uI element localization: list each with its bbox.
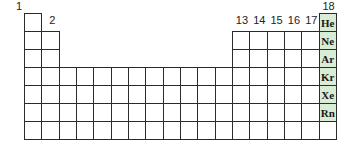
element-cell bbox=[267, 103, 285, 122]
group-label-15: 15 bbox=[268, 15, 286, 26]
element-cell bbox=[267, 121, 285, 140]
group-label-14: 14 bbox=[250, 15, 268, 26]
element-cell bbox=[41, 31, 59, 50]
noble-gas-cell: Ne bbox=[319, 31, 337, 50]
element-cell bbox=[41, 49, 59, 68]
element-cell bbox=[301, 67, 319, 86]
noble-gas-cell bbox=[319, 121, 337, 140]
element-cell bbox=[249, 103, 267, 122]
element-cell bbox=[249, 31, 267, 50]
element-cell bbox=[284, 49, 302, 68]
noble-gas-cell: Ar bbox=[319, 49, 337, 68]
element-cell bbox=[24, 13, 42, 32]
element-cell bbox=[93, 85, 111, 104]
element-cell bbox=[163, 85, 181, 104]
element-cell bbox=[93, 121, 111, 140]
element-cell bbox=[232, 31, 250, 50]
element-cell bbox=[59, 67, 77, 86]
element-cell bbox=[76, 67, 94, 86]
element-cell bbox=[163, 121, 181, 140]
element-cell bbox=[145, 67, 163, 86]
element-cell bbox=[197, 121, 215, 140]
element-cell bbox=[24, 31, 42, 50]
element-cell bbox=[145, 121, 163, 140]
element-cell bbox=[128, 67, 146, 86]
element-cell bbox=[76, 103, 94, 122]
element-cell bbox=[180, 103, 198, 122]
element-cell bbox=[24, 67, 42, 86]
element-cell bbox=[267, 49, 285, 68]
group-label-17: 17 bbox=[302, 15, 320, 26]
group-label-18: 18 bbox=[320, 1, 338, 12]
element-cell bbox=[267, 31, 285, 50]
element-cell bbox=[301, 121, 319, 140]
group-label-1: 1 bbox=[10, 1, 28, 12]
element-cell bbox=[284, 31, 302, 50]
element-cell bbox=[301, 31, 319, 50]
element-cell bbox=[111, 103, 129, 122]
element-cell bbox=[284, 67, 302, 86]
element-cell bbox=[232, 85, 250, 104]
element-cell bbox=[284, 85, 302, 104]
element-cell bbox=[59, 121, 77, 140]
element-cell bbox=[111, 67, 129, 86]
element-cell bbox=[249, 121, 267, 140]
element-cell bbox=[232, 121, 250, 140]
element-cell bbox=[128, 121, 146, 140]
element-cell bbox=[267, 85, 285, 104]
element-cell bbox=[197, 85, 215, 104]
element-cell bbox=[180, 85, 198, 104]
element-cell bbox=[197, 67, 215, 86]
group-label-16: 16 bbox=[285, 15, 303, 26]
element-cell bbox=[232, 103, 250, 122]
element-cell bbox=[215, 85, 233, 104]
element-cell bbox=[41, 103, 59, 122]
element-cell bbox=[284, 103, 302, 122]
element-cell bbox=[145, 85, 163, 104]
element-cell bbox=[301, 85, 319, 104]
element-cell bbox=[232, 49, 250, 68]
element-cell bbox=[215, 103, 233, 122]
element-cell bbox=[163, 103, 181, 122]
element-cell bbox=[215, 67, 233, 86]
element-cell bbox=[41, 67, 59, 86]
element-cell bbox=[180, 121, 198, 140]
noble-gas-cell: Xe bbox=[319, 85, 337, 104]
element-cell bbox=[301, 49, 319, 68]
element-cell bbox=[267, 67, 285, 86]
noble-gas-cell: Kr bbox=[319, 67, 337, 86]
element-cell bbox=[249, 67, 267, 86]
group-label-13: 13 bbox=[233, 15, 251, 26]
element-cell bbox=[93, 103, 111, 122]
element-cell bbox=[24, 121, 42, 140]
element-cell bbox=[163, 67, 181, 86]
element-cell bbox=[249, 49, 267, 68]
element-cell bbox=[76, 85, 94, 104]
element-cell bbox=[249, 85, 267, 104]
element-cell bbox=[284, 121, 302, 140]
element-cell bbox=[59, 85, 77, 104]
element-cell bbox=[111, 85, 129, 104]
element-cell bbox=[232, 67, 250, 86]
element-cell bbox=[197, 103, 215, 122]
element-cell bbox=[41, 121, 59, 140]
element-cell bbox=[215, 121, 233, 140]
noble-gas-cell: He bbox=[319, 13, 337, 32]
element-cell bbox=[41, 85, 59, 104]
element-cell bbox=[111, 121, 129, 140]
element-cell bbox=[76, 121, 94, 140]
element-cell bbox=[24, 85, 42, 104]
element-cell bbox=[59, 103, 77, 122]
periodic-table: HeNeArKrXeRn12131415161718 bbox=[0, 0, 355, 149]
element-cell bbox=[128, 103, 146, 122]
element-cell bbox=[24, 49, 42, 68]
group-label-2: 2 bbox=[43, 15, 61, 26]
element-cell bbox=[128, 85, 146, 104]
element-cell bbox=[180, 67, 198, 86]
element-cell bbox=[93, 67, 111, 86]
element-cell bbox=[301, 103, 319, 122]
element-cell bbox=[24, 103, 42, 122]
element-cell bbox=[145, 103, 163, 122]
noble-gas-cell: Rn bbox=[319, 103, 337, 122]
